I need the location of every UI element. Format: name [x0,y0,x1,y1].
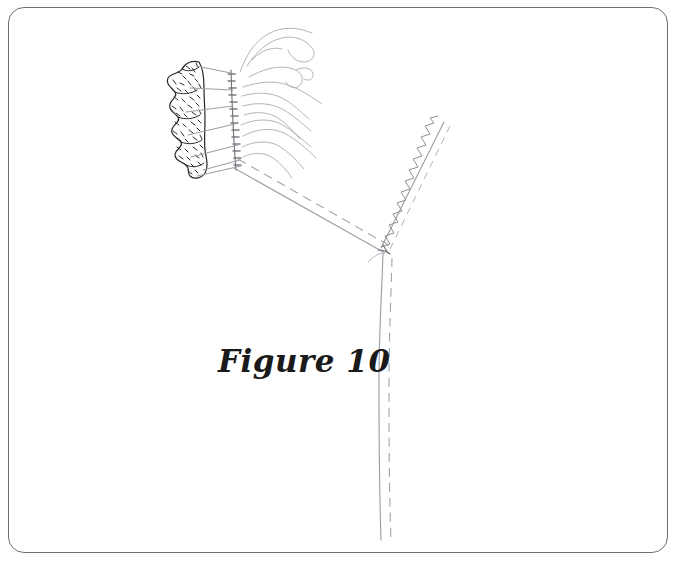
figure-page: .ln { fill:none; stroke:#9ea0a6; stroke-… [0,0,682,568]
shoulder-seam-stitch-dash [238,159,392,247]
zigzag-overlock-seam [381,116,444,248]
lace-trim-edge [167,61,207,178]
bodice-edge-line [368,253,384,262]
side-seam-stitch-dash [389,258,392,542]
zigzag-seam-dash [390,124,451,249]
gathering-stitch-column [228,70,241,170]
gather-fold-lines [240,28,322,178]
pattern-illustration: .ln { fill:none; stroke:#9ea0a6; stroke-… [0,0,682,568]
shoulder-seam-line [234,168,385,253]
figure-caption: Figure 10 [218,339,378,383]
side-seam-line [379,253,383,540]
